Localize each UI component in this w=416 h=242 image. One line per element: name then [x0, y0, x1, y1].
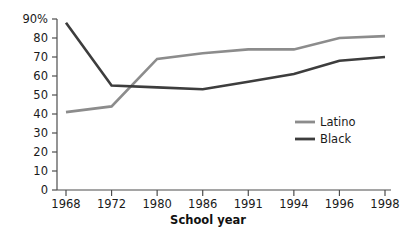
x-tick-label: 1972 — [97, 197, 126, 211]
y-tick-label: 10 — [33, 164, 48, 178]
y-tick-label: 0 — [41, 183, 48, 197]
x-axis-title: School year — [170, 213, 246, 227]
x-tick-label: 1986 — [188, 197, 217, 211]
chart-container: 90%80706050403020100 1968197219801986199… — [0, 0, 416, 242]
series-lines — [66, 23, 385, 112]
y-tick-label: 80 — [33, 31, 48, 45]
x-tick-label: 1968 — [51, 197, 80, 211]
y-tick-label: 70 — [33, 50, 48, 64]
x-tick-label: 1996 — [325, 197, 354, 211]
y-tick-label: 90% — [22, 12, 48, 26]
chart-legend: LatinoBlack — [295, 115, 355, 146]
x-tick-label: 1991 — [234, 197, 263, 211]
series-line-black — [66, 23, 385, 90]
legend-label-latino: Latino — [320, 115, 355, 129]
x-tick-label: 1980 — [143, 197, 172, 211]
y-tick-label: 20 — [33, 145, 48, 159]
x-tick-label: 1998 — [370, 197, 399, 211]
x-tick-label: 1994 — [279, 197, 308, 211]
x-axis-tick-marks — [66, 190, 385, 196]
y-tick-label: 30 — [33, 126, 48, 140]
y-axis-tick-marks — [52, 19, 57, 190]
series-line-latino — [66, 36, 385, 112]
line-chart: 90%80706050403020100 1968197219801986199… — [0, 0, 416, 242]
y-tick-label: 50 — [33, 88, 48, 102]
y-tick-label: 60 — [33, 69, 48, 83]
legend-label-black: Black — [320, 132, 351, 146]
x-axis-tick-labels: 19681972198019861991199419961998 — [51, 197, 399, 211]
y-tick-label: 40 — [33, 107, 48, 121]
y-axis-tick-labels: 90%80706050403020100 — [22, 12, 48, 197]
